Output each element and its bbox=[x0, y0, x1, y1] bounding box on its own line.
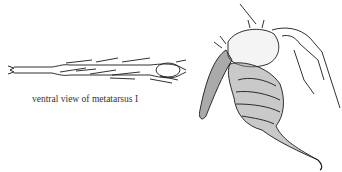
metatarsus-drawing bbox=[8, 58, 186, 83]
palpal-organ-drawing bbox=[199, 4, 340, 170]
figure-caption: ventral view of metatarsus I bbox=[32, 94, 138, 104]
figure-canvas bbox=[0, 0, 342, 172]
